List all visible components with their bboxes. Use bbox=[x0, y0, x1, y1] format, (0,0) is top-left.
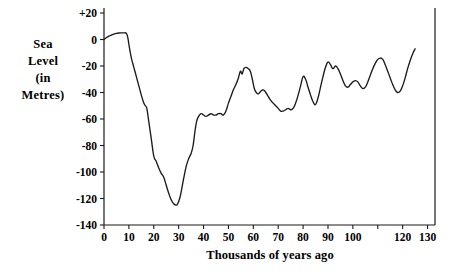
x-tick-label: 10 bbox=[123, 231, 135, 243]
sea-level-line bbox=[104, 33, 415, 205]
x-tick-label: 120 bbox=[394, 231, 412, 243]
y-tick-label: -40 bbox=[82, 87, 98, 99]
x-tick-label: 70 bbox=[272, 231, 284, 243]
y-tick-label: -100 bbox=[76, 166, 97, 178]
y-tick-label: -140 bbox=[76, 219, 97, 231]
x-tick-label: 130 bbox=[419, 231, 437, 243]
x-axis-title: Thousands of years ago bbox=[100, 248, 440, 263]
y-axis-title-line-4: Metres) bbox=[4, 87, 82, 104]
y-axis-title-line-1: Sea bbox=[4, 36, 82, 53]
x-tick-label: 30 bbox=[173, 231, 185, 243]
x-tick-label: 0 bbox=[101, 231, 107, 243]
y-axis-title: Sea Level (in Metres) bbox=[4, 36, 82, 104]
y-axis-title-line-3: (in bbox=[4, 70, 82, 87]
x-tick-label: 90 bbox=[322, 231, 334, 243]
x-axis: 0102030405060708090100120130 bbox=[101, 225, 436, 243]
y-axis-title-line-2: Level bbox=[4, 53, 82, 70]
x-tick-label: 40 bbox=[198, 231, 210, 243]
sea-level-curve bbox=[104, 33, 415, 205]
y-tick-label: 0 bbox=[91, 34, 97, 46]
x-tick-label: 80 bbox=[297, 231, 309, 243]
sea-level-chart: Sea Level (in Metres) +200-20-40-60-80-1… bbox=[0, 0, 450, 275]
x-tick-label: 20 bbox=[148, 231, 160, 243]
y-tick-label: -60 bbox=[82, 113, 98, 125]
x-tick-label: 100 bbox=[344, 231, 362, 243]
x-tick-label: 50 bbox=[223, 231, 235, 243]
x-tick-label: 60 bbox=[248, 231, 260, 243]
y-tick-label: -20 bbox=[82, 60, 98, 72]
y-tick-label: +20 bbox=[79, 7, 97, 19]
y-tick-label: -120 bbox=[76, 193, 97, 205]
y-tick-label: -80 bbox=[82, 140, 98, 152]
